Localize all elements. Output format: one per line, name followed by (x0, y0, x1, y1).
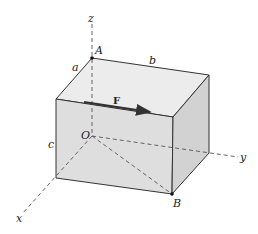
label-c: c (48, 138, 54, 151)
point-A (90, 56, 94, 60)
label-a: a (72, 61, 79, 74)
label-O: O (81, 129, 90, 142)
label-y: y (239, 151, 247, 164)
label-A: A (94, 44, 103, 57)
label-b: b (149, 54, 156, 67)
box-force-diagram: z A a b F O c y B x (0, 0, 258, 234)
label-F: F (113, 95, 120, 106)
label-z: z (87, 12, 94, 25)
label-x: x (16, 212, 23, 225)
point-B (170, 192, 174, 196)
label-B: B (172, 197, 181, 210)
